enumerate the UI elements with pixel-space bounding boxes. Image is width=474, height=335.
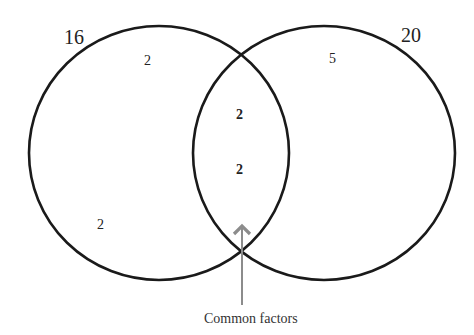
- set-label-16: 16: [64, 26, 84, 48]
- circle-16: [29, 26, 289, 280]
- common-factors-caption: Common factors: [204, 311, 298, 326]
- venn-diagram: 16 20 2 2 5 2 2 Common factors: [0, 0, 474, 335]
- factor-16-top: 2: [144, 53, 151, 68]
- circle-20: [193, 26, 455, 280]
- factor-20: 5: [329, 51, 336, 66]
- set-label-20: 20: [401, 24, 421, 46]
- factor-16-bottom: 2: [97, 217, 104, 232]
- common-factor-2: 2: [236, 162, 243, 177]
- common-factor-1: 2: [236, 107, 243, 122]
